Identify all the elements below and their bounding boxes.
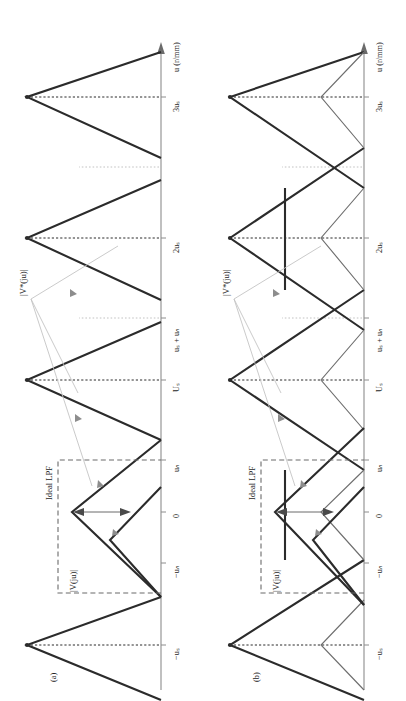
panel-b: u (r/mm) 3uₛ 2uₛ uₛ + uₙ Uₛ uₙ 0 −uₙ xyxy=(203,0,406,701)
leader-lines-a xyxy=(31,246,118,486)
panel-a-plot: u (r/mm) 3uₛ 2uₛ uₛ + uₙ Uₛ uₙ 0 −uₙ xyxy=(0,0,203,701)
tick-label-usun-a: uₛ + uₙ xyxy=(172,329,181,352)
baseband-spectrum-a xyxy=(72,440,161,597)
axis-label-text: u (r/mm) xyxy=(375,42,384,72)
tick-label-usun-b: uₛ + uₙ xyxy=(375,329,384,352)
axis-ticks-b xyxy=(364,97,369,645)
tick-label-3us-b: 3uₛ xyxy=(375,101,384,112)
tick-label-2us-b: 2uₛ xyxy=(375,242,384,253)
sampled-label-text: |V*(ju)| xyxy=(221,269,231,296)
tick-label-text: 2uₛ xyxy=(172,242,181,253)
panel-label-a: (a) xyxy=(49,672,58,682)
panel-label-text: (b) xyxy=(252,672,261,682)
tick-label-un-b: uₙ xyxy=(375,465,384,472)
tick-label-text: 3uₛ xyxy=(375,101,384,112)
tick-label-text: Uₛ xyxy=(375,383,384,392)
baseband-spectrum-label-b: |V(ju)| xyxy=(271,570,281,592)
tick-label-Us-a: Uₛ xyxy=(172,383,181,392)
tick-label-zero-a: 0 xyxy=(172,514,181,518)
figure-canvas: u (r/mm) 3uₛ 2uₛ uₛ + uₙ Uₛ uₙ 0 −uₙ xyxy=(0,0,406,701)
lpf-label-text: Ideal LPF xyxy=(44,466,54,500)
tick-label-negus-a: −uₛ xyxy=(172,648,181,660)
axis-title-a: u (r/mm) xyxy=(172,42,181,72)
impulse-lines-a xyxy=(25,95,159,647)
tick-label-zero-b: 0 xyxy=(375,514,384,518)
tick-label-text: 0 xyxy=(375,514,384,518)
flank-markers-a xyxy=(70,289,119,536)
tick-label-text: −uₛ xyxy=(172,648,181,660)
sampled-spectrum-label-b: |V*(ju)| xyxy=(221,269,231,296)
ideal-lpf-label-b: Ideal LPF xyxy=(247,466,257,500)
tick-label-Us-b: Uₛ xyxy=(375,383,384,392)
panel-label-b: (b) xyxy=(252,672,261,682)
baseband-spectrum-b xyxy=(275,428,364,605)
panel-a: u (r/mm) 3uₛ 2uₛ uₛ + uₙ Uₛ uₙ 0 −uₙ xyxy=(0,0,203,701)
tick-label-text: −uₙ xyxy=(172,566,181,578)
tick-label-3us-a: 3uₛ xyxy=(172,101,181,112)
sampled-spectrum-label-a: |V*(ju)| xyxy=(18,269,28,296)
tick-label-text: 0 xyxy=(172,514,181,518)
tick-label-text: uₙ xyxy=(172,465,181,472)
ideal-lpf-label-a: Ideal LPF xyxy=(44,466,54,500)
tick-label-negun-a: −uₙ xyxy=(172,566,181,578)
lpf-width-arrow-a xyxy=(73,508,131,516)
panel-label-text: (a) xyxy=(49,672,58,682)
tick-label-text: −uₛ xyxy=(375,648,384,660)
leader-lines-b xyxy=(234,246,321,486)
baseband-spectrum-label-a: |V(ju)| xyxy=(68,570,78,592)
baseband-label-text: |V(ju)| xyxy=(271,570,281,592)
flank-markers-b xyxy=(273,289,322,536)
aliasing-overlap-b xyxy=(321,52,364,690)
sampled-spectrum-b xyxy=(230,52,364,700)
tick-label-text: 3uₛ xyxy=(172,101,181,112)
axis-title-b: u (r/mm) xyxy=(375,42,384,72)
lpf-label-text: Ideal LPF xyxy=(247,466,257,500)
tick-label-2us-a: 2uₛ xyxy=(172,242,181,253)
axis-ticks-a xyxy=(161,97,166,645)
sampled-spectrum-a xyxy=(27,52,161,700)
baseband-label-text: |V(ju)| xyxy=(68,570,78,592)
lpf-width-arrow-b xyxy=(276,508,334,516)
panel-b-plot: u (r/mm) 3uₛ 2uₛ uₛ + uₙ Uₛ uₙ 0 −uₙ xyxy=(203,0,406,701)
tick-label-negus-b: −uₛ xyxy=(375,648,384,660)
tick-label-un-a: uₙ xyxy=(172,465,181,472)
tick-label-text: −uₙ xyxy=(375,566,384,578)
tick-label-text: Uₛ xyxy=(172,383,181,392)
impulse-lines-b xyxy=(228,95,362,647)
axis-label-text: u (r/mm) xyxy=(172,42,181,72)
tick-label-text: uₛ + uₙ xyxy=(375,329,384,352)
tick-label-text: uₙ xyxy=(375,465,384,472)
tick-label-text: uₛ + uₙ xyxy=(172,329,181,352)
tick-label-negun-b: −uₙ xyxy=(375,566,384,578)
tick-label-text: 2uₛ xyxy=(375,242,384,253)
sampled-label-text: |V*(ju)| xyxy=(18,269,28,296)
